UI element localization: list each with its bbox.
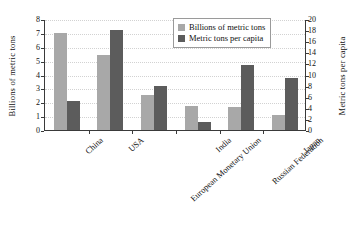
bar-group	[132, 20, 176, 130]
x-axis-tick-mark	[220, 130, 221, 134]
bar-metric-tons-per-capita	[198, 122, 211, 130]
legend-item: Billions of metric tons	[178, 22, 265, 33]
bar-billions-of-metric-tons	[228, 107, 241, 130]
y-axis-left-tick-mark	[41, 89, 44, 90]
bar-billions-of-metric-tons	[54, 33, 67, 130]
y-axis-left-title-text: Billions of metric tons	[7, 35, 17, 116]
y-axis-right-title-text: Metric tons per capita	[337, 36, 347, 115]
bar-chart: Billions of metric tons Metric tons per …	[0, 0, 350, 235]
y-axis-right-tick-label: 20	[308, 16, 316, 24]
x-axis-category-label: India	[213, 135, 233, 154]
y-axis-left-tick-label: 7	[36, 30, 40, 38]
bar-metric-tons-per-capita	[241, 65, 254, 130]
bar-metric-tons-per-capita	[285, 78, 298, 130]
legend-swatch-icon	[178, 35, 185, 42]
x-axis-tick-mark	[176, 130, 177, 134]
y-axis-left-tick-label: 1	[36, 113, 40, 121]
bar-billions-of-metric-tons	[97, 55, 110, 130]
legend-item: Metric tons per capita	[178, 33, 265, 44]
y-axis-left-tick-mark	[41, 131, 44, 132]
x-axis-tick-mark	[132, 130, 133, 134]
bar-metric-tons-per-capita	[110, 30, 123, 130]
y-axis-left-tick-mark	[41, 103, 44, 104]
y-axis-left-tick-mark	[41, 34, 44, 35]
y-axis-right-tick-mark	[306, 131, 309, 132]
y-axis-right-tick-label: 18	[308, 27, 316, 35]
y-axis-left-tick-label: 8	[36, 16, 40, 24]
x-axis-category-label: USA	[126, 135, 145, 154]
y-axis-left-tick-mark	[41, 48, 44, 49]
legend-item-label: Metric tons per capita	[189, 34, 263, 43]
y-axis-left-tick-mark	[41, 76, 44, 77]
x-axis-tick-mark	[89, 130, 90, 134]
y-axis-left-tick-label: 5	[36, 58, 40, 66]
bar-billions-of-metric-tons	[185, 106, 198, 130]
y-axis-right-ticks: 20181614121086420	[308, 20, 324, 131]
y-axis-left-tick-label: 3	[36, 85, 40, 93]
y-axis-left-tick-label: 2	[36, 99, 40, 107]
y-axis-left-title: Billions of metric tons	[6, 20, 18, 131]
y-axis-left-tick-mark	[41, 117, 44, 118]
y-axis-right-tick-label: 10	[308, 72, 316, 80]
y-axis-right-tick-label: 12	[308, 60, 316, 68]
bar-group	[45, 20, 89, 130]
chart-legend: Billions of metric tonsMetric tons per c…	[173, 18, 271, 48]
y-axis-right-title: Metric tons per capita	[336, 20, 348, 131]
legend-item-label: Billions of metric tons	[189, 23, 265, 32]
bar-billions-of-metric-tons	[141, 95, 154, 130]
bar-metric-tons-per-capita	[67, 101, 80, 130]
y-axis-left-tick-label: 4	[36, 72, 40, 80]
y-axis-left-tick-label: 0	[36, 127, 40, 135]
y-axis-right-tick-label: 14	[308, 49, 316, 57]
y-axis-left-ticks: 876543210	[26, 20, 40, 131]
y-axis-left-tick-label: 6	[36, 44, 40, 52]
legend-swatch-icon	[178, 24, 185, 31]
bar-group	[89, 20, 133, 130]
x-axis-tick-mark	[263, 130, 264, 134]
bar-metric-tons-per-capita	[154, 86, 167, 130]
y-axis-left-tick-mark	[41, 62, 44, 63]
x-axis-category-label: China	[83, 135, 105, 156]
y-axis-left-tick-mark	[41, 20, 44, 21]
y-axis-right-tick-label: 16	[308, 38, 316, 46]
bar-billions-of-metric-tons	[272, 115, 285, 130]
